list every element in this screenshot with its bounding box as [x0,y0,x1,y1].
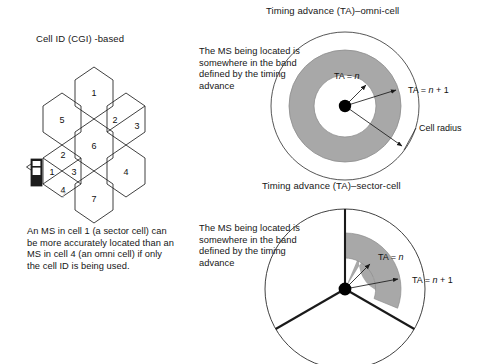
sector-base-station-dot [339,283,352,296]
hex-label-5: 5 [59,115,64,125]
omni-label-ta-n: TA = n [334,71,360,81]
hex-label-6: 6 [91,141,96,151]
omni-cell-panel: Timing advance (TA)–omni-cell The MS bei… [190,0,490,175]
sector-cell-panel: Timing advance (TA)–sector-cell The MS b… [190,175,490,364]
cell-id-panel: Cell ID (CGI) -based [0,0,200,290]
sector-label-ta-n-plus-1: TA = n + 1 [412,275,453,285]
omni-label-ta-n-plus-1: TA = n + 1 [408,85,449,95]
hexagon-cell-cluster: 1 5 6 4 7 2 3 1 2 3 4 [0,0,200,230]
hex-label-1: 1 [91,88,96,98]
sector-label-1: 1 [49,167,54,177]
sector-label-ta-n: TA = n [378,252,404,262]
sector-label-3: 3 [71,167,76,177]
hex-label-7: 7 [91,194,96,204]
sector-label-2-upper: 2 [112,115,117,125]
mobile-phone-icon [27,159,43,186]
omni-base-station-dot [339,100,351,112]
omni-cell-diagram: TA = n TA = n + 1 Cell radius [190,0,490,175]
ghost-artifact-label: 7 [61,190,66,200]
hex-label-4: 4 [123,167,128,177]
sector-boundary-southwest [276,289,345,329]
sector-label-3-right: 3 [134,121,139,131]
omni-label-cell-radius: Cell radius [419,123,462,133]
cell-id-panel-caption: An MS in cell 1 (a sector cell) can be m… [27,226,202,272]
sector-label-2: 2 [60,150,65,160]
sector-cell-diagram: TA = n TA = n + 1 [190,175,490,364]
omni-cell-radius-leader [404,128,416,150]
timing-advance-figure: Cell ID (CGI) -based [0,0,490,364]
